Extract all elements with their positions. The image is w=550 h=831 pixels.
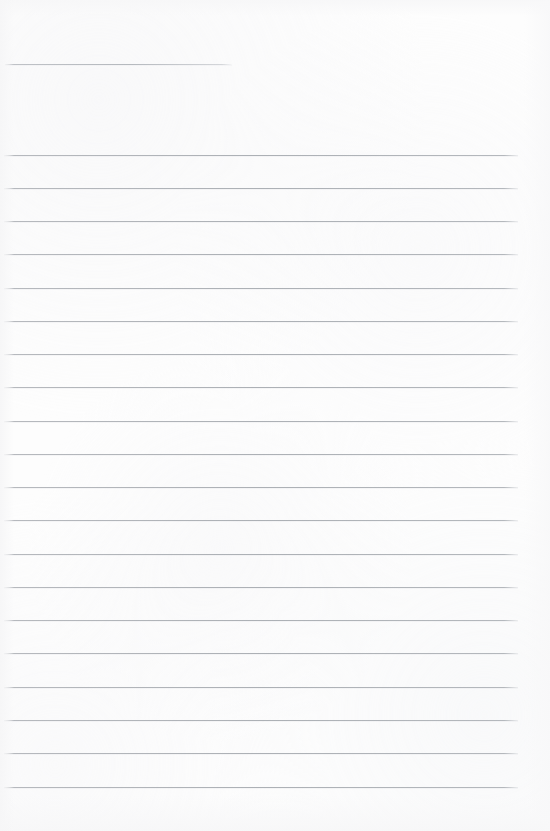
ruled-line	[4, 687, 518, 688]
ruled-line	[4, 387, 518, 388]
ruled-line	[4, 787, 518, 788]
ruled-line	[4, 753, 518, 754]
scanned-page	[0, 0, 550, 831]
ruled-line	[4, 653, 518, 654]
ruled-line	[4, 321, 518, 322]
ruled-line	[4, 155, 518, 156]
ruled-line	[4, 221, 518, 222]
ruled-line	[4, 620, 518, 621]
ruled-line	[4, 288, 518, 289]
paper-texture-overlay	[0, 0, 550, 831]
ruled-line	[4, 720, 518, 721]
ruled-line	[4, 487, 518, 488]
ruled-line	[4, 587, 518, 588]
paper-vignette-overlay	[0, 0, 550, 831]
ruled-line	[4, 188, 518, 189]
ruled-line	[4, 454, 518, 455]
ruled-line	[4, 554, 518, 555]
header-rule	[5, 64, 232, 65]
ruled-line	[4, 421, 518, 422]
ruled-line	[4, 254, 518, 255]
ruled-line	[4, 520, 518, 521]
ruled-line	[4, 354, 518, 355]
